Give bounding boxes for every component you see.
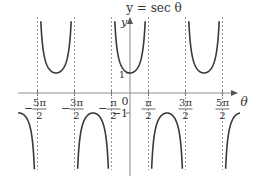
secant-branch bbox=[189, 21, 219, 73]
svg-text:−: − bbox=[24, 102, 33, 115]
svg-text:π: π bbox=[145, 97, 152, 108]
svg-text:2: 2 bbox=[36, 110, 42, 121]
svg-text:2: 2 bbox=[182, 110, 188, 121]
secant-branch bbox=[78, 113, 109, 169]
svg-text:5π: 5π bbox=[33, 97, 46, 108]
svg-text:3π: 3π bbox=[179, 97, 192, 108]
x-tick-label: 3π2 bbox=[178, 97, 192, 121]
x-axis-label: θ bbox=[240, 95, 248, 109]
svg-text:2: 2 bbox=[145, 110, 151, 121]
svg-text:5π: 5π bbox=[216, 97, 229, 108]
svg-text:2: 2 bbox=[110, 110, 116, 121]
y-tick-label-1: 1 bbox=[119, 69, 125, 80]
plot-area: y = sec θ y θ 0 1 −1 5π2−3π2−π2−π23π25π2 bbox=[0, 0, 258, 179]
secant-branch bbox=[18, 113, 34, 169]
svg-text:2: 2 bbox=[219, 110, 225, 121]
x-tick-label: 5π2− bbox=[24, 97, 47, 121]
svg-text:−: − bbox=[98, 102, 107, 115]
chart-title: y = sec θ bbox=[125, 1, 181, 15]
secant-curve bbox=[18, 21, 240, 169]
svg-text:3π: 3π bbox=[70, 97, 83, 108]
svg-text:2: 2 bbox=[73, 110, 79, 121]
y-axis-arrow-icon bbox=[127, 17, 133, 24]
x-tick-label: 5π2 bbox=[216, 97, 230, 121]
secant-branch bbox=[41, 21, 71, 73]
svg-text:π: π bbox=[110, 97, 117, 108]
svg-text:−: − bbox=[61, 102, 70, 115]
secant-branch bbox=[226, 113, 240, 169]
secant-graph: y = sec θ y θ 0 1 −1 5π2−3π2−π2−π23π25π2 bbox=[0, 0, 258, 179]
x-tick-label: 3π2− bbox=[61, 97, 84, 121]
secant-branch bbox=[152, 113, 183, 169]
y-axis-label: y bbox=[120, 16, 128, 29]
x-axis-arrow-icon bbox=[231, 90, 238, 96]
x-tick-label: π2 bbox=[142, 97, 156, 121]
